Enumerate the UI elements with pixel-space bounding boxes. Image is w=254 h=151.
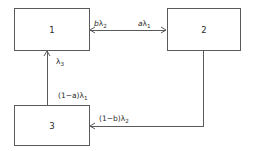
node-box-2[interactable]: 2 <box>168 9 241 51</box>
edge-label-one-minus-a-lambda-1-sub: 1 <box>84 95 88 101</box>
edge-label-one-minus-a-lambda-1-main: (1−a) <box>58 91 80 100</box>
node-1-label: 1 <box>49 25 54 35</box>
node-box-3[interactable]: 3 <box>15 106 90 146</box>
diagram-canvas: 1 2 3 bλ2 aλ1 λ3 (1−a)λ1 (1−b)λ2 <box>0 0 254 151</box>
edge-label-one-minus-b-lambda-2: (1−b)λ2 <box>99 114 129 124</box>
edge-label-b-lambda-2-sub: 2 <box>103 23 107 29</box>
edge-label-a-lambda-1: aλ1 <box>138 19 151 29</box>
edge-label-lambda-3: λ3 <box>56 57 64 67</box>
edge-3-1-up-arrow <box>44 51 50 105</box>
diagram-svg: 1 2 3 bλ2 aλ1 λ3 (1−a)λ1 (1−b)λ2 <box>0 0 254 151</box>
edge-label-lambda-3-sub: 3 <box>60 61 64 67</box>
edge-label-b-lambda-2: bλ2 <box>94 19 107 29</box>
node-2-label: 2 <box>201 25 206 35</box>
edge-label-a-lambda-1-sub: 1 <box>147 23 151 29</box>
node-3-label: 3 <box>49 121 54 131</box>
edge-label-one-minus-b-lambda-2-main: (1−b) <box>99 114 121 123</box>
edge-label-one-minus-a-lambda-1: (1−a)λ1 <box>58 91 88 101</box>
edge-label-one-minus-b-lambda-2-sub: 2 <box>125 118 129 124</box>
node-box-1[interactable]: 1 <box>15 9 90 51</box>
